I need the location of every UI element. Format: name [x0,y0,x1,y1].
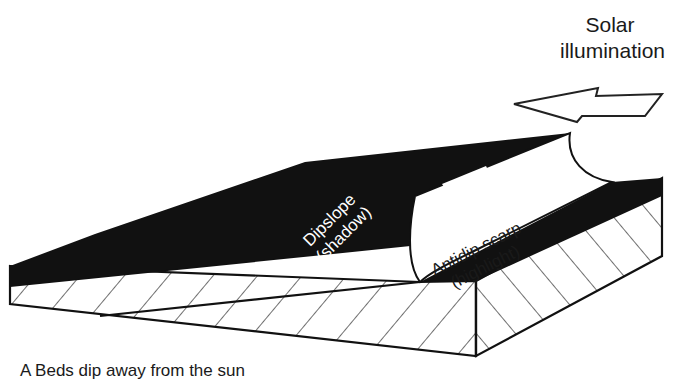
solar-illumination-label: Solar illumination [560,12,660,64]
left-arrow-icon [514,88,662,122]
figure-caption: A Beds dip away from the sun [20,361,245,381]
solar-label-line2: illumination [560,38,660,64]
solar-label-line1: Solar [560,12,660,38]
